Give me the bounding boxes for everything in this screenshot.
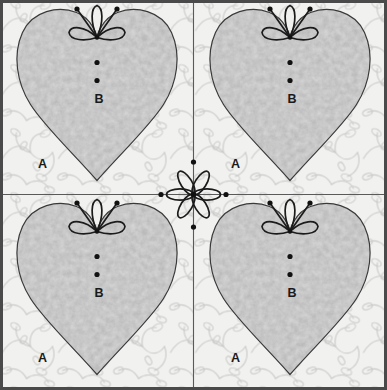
label-background-a: A	[38, 351, 47, 365]
label-background-a: A	[231, 351, 240, 365]
block-bottom-left: A B	[1, 195, 194, 389]
center-dot	[191, 192, 197, 198]
quilt-diagram-canvas: A B A B A B A B	[0, 0, 387, 390]
block-top-left: A B	[1, 1, 194, 195]
label-heart-b: B	[287, 92, 296, 106]
label-heart-b: B	[287, 286, 296, 300]
label-heart-b: B	[94, 286, 103, 300]
quilt-diagram: A B A B A B A B	[0, 0, 387, 390]
label-heart-b: B	[94, 92, 103, 106]
block-top-right: A B	[194, 1, 387, 195]
block-bottom-right: A B	[194, 195, 387, 389]
label-background-a: A	[38, 157, 47, 171]
label-background-a: A	[231, 157, 240, 171]
